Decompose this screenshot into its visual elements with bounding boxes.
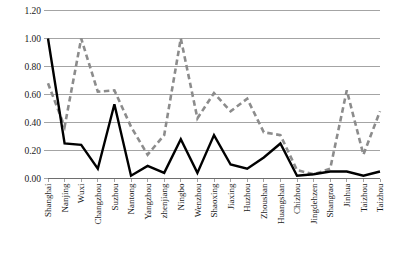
x-axis-tick-label: Jinhua: [342, 183, 352, 207]
gridlines-group: [48, 11, 380, 151]
series-line-solid: [48, 39, 380, 176]
x-axis-labels: ShanghaiNanjingWuxiChangzhouSuzhouNanton…: [43, 179, 385, 225]
y-axis-tick-label: 0.60: [24, 90, 41, 100]
x-axis-tick-label: Huangshan: [276, 183, 286, 224]
x-axis-tick-label: Yangzhou: [143, 183, 153, 220]
x-axis-tick-label: Suzhou: [110, 183, 120, 211]
x-axis-tick-label: Jiaxing: [226, 183, 236, 209]
x-axis-tick-label: Nanjing: [60, 183, 70, 212]
x-axis-tick-label: Chizhou: [292, 183, 302, 214]
y-axis-ticks: [44, 11, 48, 179]
x-axis-tick-label: Nantong: [126, 183, 136, 214]
x-axis-tick-label: Changzhou: [93, 183, 103, 224]
series-before-improvement: [48, 39, 380, 175]
y-axis-tick-label: 1.20: [24, 6, 41, 16]
x-axis-tick-label: Zhoushan: [259, 183, 269, 219]
x-axis-tick-label: zhenjiang: [159, 183, 169, 218]
x-axis-tick-label: Jingdehzen: [309, 183, 319, 224]
x-axis-tick-label: Shaoxing: [209, 183, 219, 218]
x-axis-tick-label: Wuxi: [76, 183, 86, 203]
y-axis-labels: 0.000.200.400.600.801.001.20: [24, 6, 41, 184]
series-after-improvement: [48, 39, 380, 176]
series-line-dashed: [48, 39, 380, 175]
y-axis-tick-label: 1.00: [24, 34, 41, 44]
x-axis-tick-label: Shanghai: [43, 183, 53, 217]
x-axis-tick-label: Shangrao: [325, 183, 335, 217]
y-axis-tick-label: 0.20: [24, 146, 41, 156]
x-axis-tick-label: Huzhou: [242, 183, 252, 212]
x-axis-tick-label: Taizhou: [375, 183, 385, 212]
y-axis-tick-label: 0.80: [24, 62, 41, 72]
chart-canvas: 0.000.200.400.600.801.001.20 ShanghaiNan…: [0, 0, 396, 262]
x-axis-tick-label: Wenzhou: [193, 183, 203, 217]
x-axis-tick-label: Ningbo: [176, 183, 186, 211]
line-chart: 0.000.200.400.600.801.001.20 ShanghaiNan…: [0, 0, 396, 262]
y-axis-tick-label: 0.40: [24, 118, 41, 128]
x-axis-tick-label: Taizhou: [359, 183, 369, 212]
y-axis-tick-label: 0.00: [24, 174, 41, 184]
